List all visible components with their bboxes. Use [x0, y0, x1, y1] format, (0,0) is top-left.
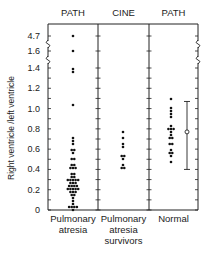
data-point [74, 191, 77, 194]
data-point [170, 155, 173, 158]
y-tick-label: 1.6 [27, 46, 40, 56]
data-point [72, 137, 75, 140]
data-point [72, 104, 75, 107]
data-point [76, 206, 79, 209]
y-tick-label: 0.6 [27, 144, 40, 154]
data-point [72, 35, 75, 38]
data-point [69, 182, 72, 185]
data-point [122, 158, 125, 161]
data-point [170, 110, 173, 113]
data-point [73, 206, 76, 209]
data-point [170, 125, 173, 128]
panel-header: CINE [112, 7, 135, 18]
data-point [170, 116, 173, 119]
data-point [171, 143, 174, 146]
data-point [67, 179, 70, 182]
data-point [74, 182, 77, 185]
data-point [122, 137, 125, 140]
data-point [72, 140, 75, 143]
data-point [122, 143, 125, 146]
data-point [72, 152, 75, 155]
data-point [72, 71, 75, 74]
data-point [120, 155, 123, 158]
data-point [72, 188, 75, 191]
panel-header: PATH [61, 7, 85, 18]
y-tick-label: 4.7 [27, 31, 40, 41]
axis-break-marks [46, 40, 200, 64]
data-point [70, 158, 73, 161]
data-point [170, 149, 173, 152]
data-point [73, 149, 76, 152]
data-point [170, 113, 173, 116]
data-point [120, 167, 123, 170]
data-point [70, 194, 73, 197]
data-point [72, 167, 75, 170]
category-label: Pulmonary [101, 213, 147, 224]
data-point [74, 188, 77, 191]
category-labels: PulmonaryatresiaPulmonaryatresiasurvivor… [50, 213, 189, 246]
data-point [170, 128, 173, 131]
data-point [70, 176, 73, 179]
data-point [72, 143, 75, 146]
data-point [70, 173, 73, 176]
data-point [68, 206, 71, 209]
y-tick-label: 0.4 [27, 164, 40, 174]
data-point [77, 179, 80, 182]
dot-plot-chart: PATHCINEPATH 00.20.40.60.81.01.21.41.64.… [0, 0, 209, 253]
category-label: atresia [59, 224, 88, 235]
data-point [168, 137, 171, 140]
data-point [72, 209, 75, 212]
data-point [170, 107, 173, 110]
data-point [73, 185, 76, 188]
data-point [170, 161, 173, 164]
data-point [73, 194, 76, 197]
data-point [171, 137, 174, 140]
data-point [68, 185, 71, 188]
y-tick-label: 0 [35, 205, 40, 215]
y-axis-label: Right ventricle /left ventricle [6, 76, 16, 180]
data-point [168, 152, 171, 155]
y-tick-label: 1.0 [27, 104, 40, 114]
category-label: Normal [158, 213, 189, 224]
data-point [72, 203, 75, 206]
data-point [170, 131, 173, 134]
data-point [72, 200, 75, 203]
data-point [67, 188, 70, 191]
normal-mean-error-bar [184, 101, 190, 169]
data-point [168, 143, 171, 146]
y-tick-label: 0.2 [27, 185, 40, 195]
data-point [122, 146, 125, 149]
data-point [72, 50, 75, 53]
data-point [123, 155, 126, 158]
data-point [74, 167, 77, 170]
data-point [73, 173, 76, 176]
data-point [72, 179, 75, 182]
data-point [70, 149, 73, 152]
data-point [77, 188, 80, 191]
data-point [167, 128, 170, 131]
data-point [73, 176, 76, 179]
panel-header: PATH [162, 7, 186, 18]
data-point [70, 206, 73, 209]
data-point [122, 131, 125, 134]
data-point [69, 191, 72, 194]
data-point [70, 164, 73, 167]
data-point [122, 164, 125, 167]
category-label: survivors [104, 235, 142, 246]
data-point [171, 152, 174, 155]
category-label: atresia [109, 224, 138, 235]
data-point [170, 134, 173, 137]
data-point [69, 167, 72, 170]
y-tick-label: 1.2 [27, 83, 40, 93]
data-point [69, 179, 72, 182]
data-point [172, 128, 175, 131]
y-tick-label: 0.8 [27, 124, 40, 134]
data-point [73, 164, 76, 167]
data-points [67, 35, 175, 212]
y-axis-tick-labels: 00.20.40.60.81.01.21.41.64.7 [27, 31, 40, 215]
data-point [72, 191, 75, 194]
y-tick-label: 1.4 [27, 63, 40, 73]
data-point [74, 179, 77, 182]
category-label: Pulmonary [50, 213, 96, 224]
data-point [72, 182, 75, 185]
